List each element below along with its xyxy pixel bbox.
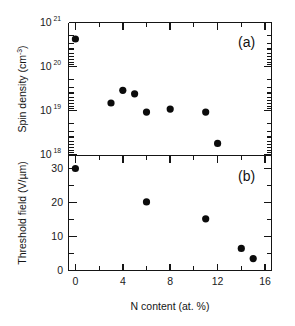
panel-b-ytick-labels: 0 10 20 30 <box>51 162 63 276</box>
panel-b-ytick-label: 0 <box>57 264 63 276</box>
x-tick-label: 8 <box>167 275 173 287</box>
data-point <box>250 255 257 262</box>
svg-text:Spin density (cm-3): Spin density (cm-3) <box>16 45 28 132</box>
panel-a-label: (a) <box>238 34 255 50</box>
data-point <box>72 35 79 42</box>
panel-a-ytick-exponent: 21 <box>54 15 62 22</box>
panel-a-ytick-label: 10 <box>40 16 52 28</box>
data-point <box>202 109 209 116</box>
panel-a-ytick-label: 10 <box>40 104 52 116</box>
panel-a-ytick-exponent: 20 <box>54 59 62 66</box>
panel-b-axis-title: Threshold field (V/µm) <box>16 161 28 265</box>
panel-a-ytick-exponent: 18 <box>54 147 62 154</box>
data-point <box>131 90 138 97</box>
panel-a-ytick-labels: 10 21 10 20 10 19 10 18 <box>40 15 61 160</box>
panel-a-axis-title-close: ) <box>16 45 28 49</box>
panel-b-label: (b) <box>238 168 255 184</box>
panel-a-data-series <box>72 35 221 147</box>
panel-a-axis-title: Spin density (cm-3) <box>16 45 28 132</box>
panel-a-ytick-exponent: 19 <box>54 103 62 110</box>
x-tick-label: 12 <box>212 275 224 287</box>
x-tick-label: 0 <box>72 275 78 287</box>
data-point <box>143 198 150 205</box>
data-point <box>143 109 150 116</box>
figure-svg: 10 21 10 20 10 19 10 18 (a) Spin density… <box>0 0 295 326</box>
panel-b-axis-title-text: Threshold field (V/µm) <box>16 161 28 265</box>
x-tick-labels: 0 4 8 12 16 <box>72 275 271 287</box>
data-point <box>107 99 114 106</box>
panel-b-ytick-label: 20 <box>51 196 63 208</box>
panel-a-y-minor-ticks <box>69 36 272 153</box>
data-point <box>119 87 126 94</box>
data-point <box>167 106 174 113</box>
x-tick-label: 16 <box>259 275 271 287</box>
data-point <box>214 140 221 147</box>
panel-b-ytick-label: 10 <box>51 230 63 242</box>
panel-a-x-ticks <box>75 23 265 30</box>
panel-b-x-ticks <box>75 156 265 271</box>
panel-a-ytick-label: 10 <box>40 148 52 160</box>
panel-b-data-series <box>72 165 257 262</box>
figure-container: 10 21 10 20 10 19 10 18 (a) Spin density… <box>0 0 295 326</box>
data-point <box>202 215 209 222</box>
data-point <box>72 165 79 172</box>
panel-b-ytick-label: 30 <box>51 162 63 174</box>
panel-a-ytick-label: 10 <box>40 60 52 72</box>
data-point <box>238 245 245 252</box>
x-axis-title: N content (at. %) <box>131 300 210 312</box>
panel-a-axis-title-main: Spin density (cm <box>16 55 28 133</box>
x-tick-label: 4 <box>120 275 126 287</box>
